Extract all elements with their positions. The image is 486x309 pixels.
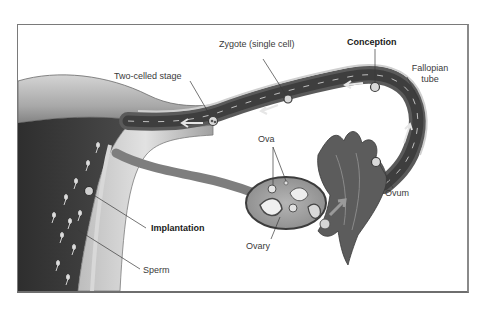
label-two-celled-stage: Two-celled stage (114, 71, 182, 82)
zygote-cell (284, 95, 292, 103)
ovarian-ligament (116, 153, 254, 193)
label-implantation: Implantation (151, 223, 205, 234)
label-ovary: Ovary (246, 241, 270, 252)
label-fallopian-tube: Fallopian tube (410, 63, 450, 85)
fimbriae (318, 132, 387, 266)
label-conception: Conception (347, 37, 397, 48)
reproductive-system-illustration (18, 25, 467, 291)
label-ova: Ova (258, 134, 275, 145)
ovum-cell (372, 158, 381, 167)
label-ovum: Ovum (385, 188, 409, 199)
diagram-frame: Two-celled stage Zygote (single cell) Co… (17, 24, 469, 293)
label-sperm: Sperm (143, 265, 170, 276)
label-zygote: Zygote (single cell) (219, 39, 295, 50)
conception-cell (371, 83, 380, 92)
